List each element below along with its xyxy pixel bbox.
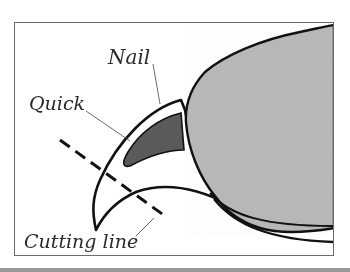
label-cutting-line: Cutting line: [24, 230, 138, 252]
nail-leader: [153, 64, 160, 104]
cutting-leader: [136, 218, 154, 236]
label-nail: Nail: [107, 45, 150, 69]
claw-diagram: Nail Quick Cutting line: [0, 0, 350, 272]
quick-leader: [86, 111, 130, 141]
label-quick: Quick: [29, 92, 85, 114]
